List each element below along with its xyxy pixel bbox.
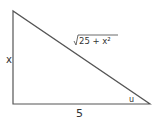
label-angle: u (129, 95, 134, 104)
right-triangle-diagram: x 5 u 25 + x² (0, 0, 157, 126)
label-hypotenuse: 25 + x² (74, 35, 118, 46)
label-horizontal-side: 5 (76, 107, 83, 120)
triangle (13, 11, 150, 104)
label-vertical-side: x (6, 54, 12, 65)
hypotenuse-expression: 25 + x² (79, 36, 111, 46)
